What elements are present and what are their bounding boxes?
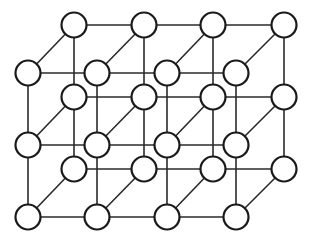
- front-atom-node: [155, 61, 180, 86]
- front-atom-node: [85, 205, 110, 230]
- back-atom-node: [201, 157, 226, 182]
- front-atom-node: [155, 205, 180, 230]
- back-atom-node: [201, 13, 226, 38]
- back-atom-node: [272, 85, 297, 110]
- back-atom-node: [132, 157, 157, 182]
- front-atom-node: [85, 133, 110, 158]
- back-atom-node: [62, 85, 87, 110]
- front-atom-node: [16, 205, 41, 230]
- back-atom-node: [132, 85, 157, 110]
- front-atom-node: [224, 61, 249, 86]
- back-atom-node: [132, 13, 157, 38]
- front-atom-node: [224, 205, 249, 230]
- depth-edges: [28, 25, 284, 217]
- back-atom-node: [272, 13, 297, 38]
- back-atom-node: [201, 85, 226, 110]
- front-atom-node: [224, 133, 249, 158]
- front-atom-node: [16, 61, 41, 86]
- back-atom-node: [272, 157, 297, 182]
- lattice-diagram: [0, 0, 313, 245]
- back-atom-node: [62, 13, 87, 38]
- back-atom-node: [62, 157, 87, 182]
- front-atom-node: [85, 61, 110, 86]
- front-atom-node: [155, 133, 180, 158]
- front-atom-node: [16, 133, 41, 158]
